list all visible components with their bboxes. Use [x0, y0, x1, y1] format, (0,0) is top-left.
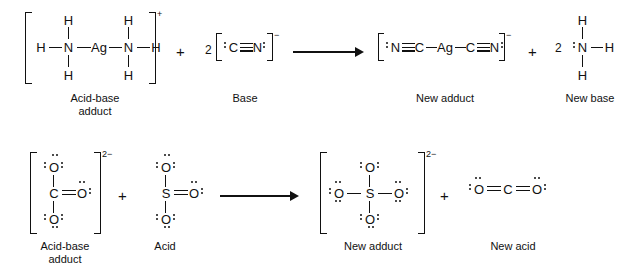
double-bond-c-o [62, 190, 76, 196]
charge-2minus: 2− [102, 150, 112, 159]
atom-n-left: N [390, 41, 401, 54]
atom-h-left: H [36, 41, 46, 54]
label-line-1: Acid-base [40, 92, 150, 105]
atom-o-left: O [333, 187, 345, 200]
atom-h-top: H [577, 14, 588, 27]
bracket-left [378, 33, 384, 61]
bond-v-down [582, 55, 583, 67]
label-new-base: New base [540, 92, 640, 105]
plus-sign-1: + [176, 44, 185, 59]
cyanide-ion: 2 − C N [205, 30, 285, 64]
reaction-1: + H N H H Ag N H H H [0, 0, 642, 139]
charge-minus: − [506, 31, 511, 40]
atom-c: C [502, 183, 514, 196]
atom-o-right: O [188, 187, 200, 200]
label-acid: Acid [125, 240, 205, 253]
arrow-shaft [220, 195, 292, 197]
atom-h-right-top: H [123, 14, 134, 27]
atom-o-top: O [48, 161, 60, 174]
carbon-dioxide: O C O [468, 175, 568, 209]
atom-c: C [48, 187, 60, 200]
double-bond-o-c-left [487, 186, 501, 192]
atom-c-left: C [414, 41, 425, 54]
dicyanoargentate-ion: − N C Ag C N [378, 30, 513, 64]
bracket-left [25, 12, 32, 84]
atom-ag: Ag [90, 41, 108, 54]
bond-h-s-o-right [378, 193, 392, 194]
sulfate-ion: 2− O O S [320, 152, 450, 234]
bracket-left [216, 33, 222, 61]
plus-sign-4: + [440, 188, 449, 203]
arrow-head [355, 47, 364, 57]
atom-o-right: O [393, 187, 405, 200]
plus-sign-3: + [118, 188, 127, 203]
atom-o-right: O [531, 183, 543, 196]
double-bond-s-o [174, 190, 188, 196]
atom-o-bottom: O [364, 213, 376, 226]
atom-c-right: C [465, 41, 476, 54]
atom-o-bottom: O [48, 213, 60, 226]
label-base: Base [205, 92, 285, 105]
reaction-arrow-2 [220, 191, 300, 201]
ammonia: 2 N H H H [555, 12, 625, 84]
atom-c: C [228, 41, 239, 54]
label-line-2: adduct [10, 253, 120, 266]
bond-v-nright-up [128, 27, 129, 39]
bond-ag-n-right [109, 47, 122, 48]
bond-v-up [582, 27, 583, 39]
atom-h-left-top: H [63, 14, 74, 27]
bond-v-nleft-up [68, 27, 69, 39]
plus-sign-2: + [528, 44, 537, 59]
bracket-right [267, 33, 273, 61]
bond-h-nleft [49, 47, 62, 48]
atom-o-top: O [364, 161, 376, 174]
bracket-left [320, 152, 327, 234]
atom-n: N [252, 41, 263, 54]
label-line-2: adduct [40, 105, 150, 118]
bracket-left [30, 152, 37, 234]
atom-o-left: O [473, 183, 485, 196]
atom-h-right: H [151, 41, 161, 54]
atom-o-right: O [76, 187, 88, 200]
atom-h-bottom: H [577, 69, 588, 82]
atom-n: N [577, 41, 588, 54]
bond-v-nleft-down [68, 55, 69, 67]
arrow-head [290, 191, 299, 201]
atom-o-bottom: O [160, 213, 172, 226]
charge-2minus: 2− [426, 150, 436, 159]
bracket-right [94, 152, 101, 234]
label-new-adduct-1: New adduct [390, 92, 500, 105]
label-acid-base-adduct-1: Acid-base adduct [40, 92, 150, 118]
atom-n-right: N [123, 41, 134, 54]
reaction-2: 2− O C O [0, 139, 642, 278]
charge-minus: − [274, 31, 279, 40]
diamminesilver-cation: + H N H H Ag N H H H [25, 12, 165, 84]
atom-n-right: N [489, 41, 500, 54]
label-line-1: Acid-base [10, 240, 120, 253]
label-new-adduct-2: New adduct [318, 240, 428, 253]
reaction-arrow-1 [293, 47, 365, 57]
bond-n-ag-left [77, 47, 91, 48]
label-acid-base-adduct-2: Acid-base adduct [10, 240, 120, 266]
atom-ag: Ag [436, 41, 454, 54]
arrow-shaft [293, 51, 357, 53]
atom-h-left-bottom: H [63, 69, 74, 82]
bond-h-o-s-left [347, 193, 361, 194]
atom-s: S [160, 187, 172, 200]
atom-h-right: H [604, 41, 615, 54]
atom-o-top: O [160, 161, 172, 174]
bond-h-right [591, 47, 603, 48]
bracket-right [418, 152, 425, 234]
atom-h-right-bottom: H [123, 69, 134, 82]
atom-n-left: N [63, 41, 74, 54]
label-new-acid: New acid [458, 240, 568, 253]
bond-h-nright [137, 47, 150, 48]
coefficient-2-cyanide: 2 [205, 44, 212, 56]
coefficient-2-ammonia: 2 [555, 42, 562, 54]
atom-s: S [364, 187, 376, 200]
double-bond-c-o-right [516, 186, 530, 192]
lewis-reaction-figure: + H N H H Ag N H H H [0, 0, 642, 278]
charge-plus: + [157, 10, 162, 19]
bond-v-nright-down [128, 55, 129, 67]
